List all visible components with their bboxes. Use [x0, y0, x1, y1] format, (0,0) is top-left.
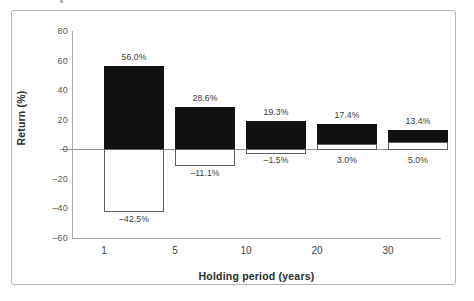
bar-low-3[interactable] [246, 149, 306, 154]
bar-group-1[interactable]: 56.0% –42.5% [104, 31, 164, 238]
bar-high-label-4: 17.4% [312, 110, 382, 120]
plot-area: 56.0% –42.5% 28.6% –11.1% 19.3% –1.5% 17… [72, 31, 441, 238]
x-axis-line [72, 238, 441, 239]
bar-low-label-1: –42.5% [99, 214, 169, 224]
y-axis-title: Return (%) [15, 73, 27, 163]
x-tick-label-5: 5 [145, 245, 205, 256]
bar-low-1[interactable] [104, 149, 164, 212]
y-tick-label-neg40: –40 [34, 203, 68, 213]
y-tick-label-20: 20 [34, 115, 68, 125]
y-tick-label-neg20: –20 [34, 174, 68, 184]
y-tick-label-60: 60 [34, 56, 68, 66]
bar-high-4[interactable] [317, 124, 377, 145]
bar-low-label-2: –11.1% [170, 168, 240, 178]
x-tick-label-1: 1 [74, 245, 134, 256]
bar-high-2[interactable] [175, 107, 235, 150]
bar-low-label-4: 3.0% [312, 155, 382, 165]
x-tick-label-20: 20 [287, 245, 347, 256]
x-axis-title: Holding period (years) [72, 270, 441, 282]
bar-high-label-1: 56.0% [99, 52, 169, 62]
bar-high-label-2: 28.6% [170, 93, 240, 103]
bar-group-5[interactable]: 13.4% 5.0% [388, 31, 448, 238]
bar-low-label-5: 5.0% [383, 155, 453, 165]
bar-low-label-3: –1.5% [241, 155, 311, 165]
chart-figure: 80 60 40 20 0 –20 –40 –60 Return (%) 56.… [0, 0, 474, 301]
bar-group-3[interactable]: 19.3% –1.5% [246, 31, 306, 238]
x-tick-label-30: 30 [358, 245, 418, 256]
y-tick-label-40: 40 [34, 85, 68, 95]
bar-low-4[interactable] [317, 144, 377, 150]
y-tick-label-neg60: –60 [34, 233, 68, 243]
y-tick-label-0: 0 [34, 144, 68, 154]
bar-high-label-3: 19.3% [241, 107, 311, 117]
y-axis-tick-labels: 80 60 40 20 0 –20 –40 –60 [28, 0, 68, 301]
y-tick-label-80: 80 [34, 26, 68, 36]
bar-low-5[interactable] [388, 142, 448, 150]
bar-group-4[interactable]: 17.4% 3.0% [317, 31, 377, 238]
bar-high-label-5: 13.4% [383, 116, 453, 126]
bar-group-2[interactable]: 28.6% –11.1% [175, 31, 235, 238]
x-tick-label-10: 10 [216, 245, 276, 256]
bar-high-3[interactable] [246, 121, 306, 150]
bar-high-1[interactable] [104, 66, 164, 150]
bar-low-2[interactable] [175, 149, 235, 166]
